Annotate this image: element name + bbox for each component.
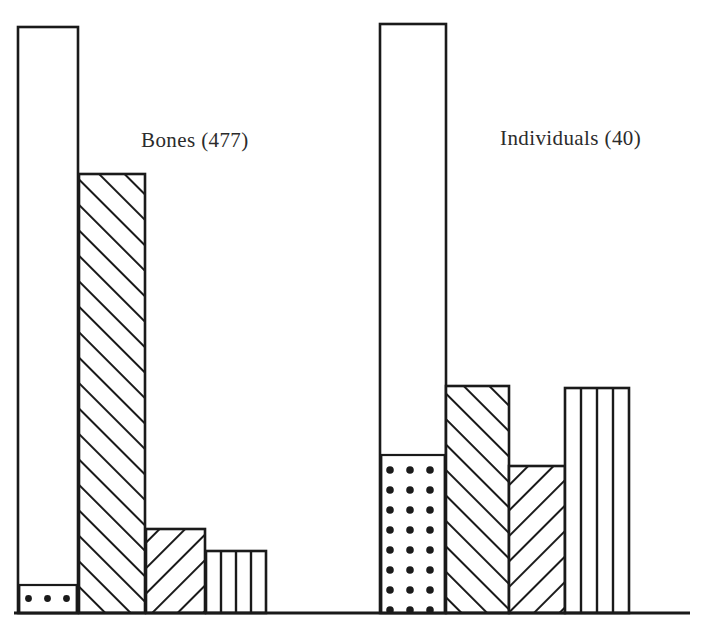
bar-bones-3-body — [146, 529, 205, 613]
bar-chart-figure: Bones (477) Individuals (40) — [0, 0, 704, 632]
bar-bones-1[interactable] — [18, 27, 78, 613]
chart-canvas — [0, 0, 704, 632]
bar-bones-2-body — [79, 174, 145, 613]
bar-individuals-1[interactable] — [380, 24, 446, 613]
bar-bones-4[interactable] — [206, 551, 266, 613]
bar-bones-3[interactable] — [146, 529, 205, 613]
group-label-individuals: Individuals (40) — [500, 128, 641, 149]
group-bones — [18, 27, 266, 613]
group-individuals — [380, 24, 629, 613]
bar-bones-1-dotted-segment — [19, 585, 76, 613]
bar-individuals-4[interactable] — [565, 388, 629, 613]
bar-individuals-3[interactable] — [509, 466, 565, 613]
bar-bones-1-body — [18, 27, 78, 613]
bar-individuals-1-dotted-segment — [381, 455, 444, 613]
bar-bones-2[interactable] — [79, 174, 145, 613]
bar-individuals-2[interactable] — [446, 386, 509, 613]
bar-individuals-2-body — [446, 386, 509, 613]
bar-individuals-3-body — [509, 466, 565, 613]
group-label-bones: Bones (477) — [141, 130, 249, 151]
